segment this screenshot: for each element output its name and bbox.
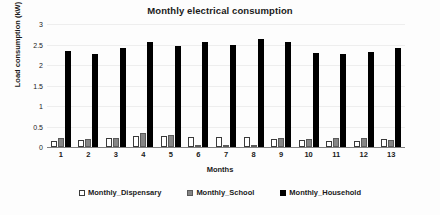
bar-dispensary: [161, 136, 167, 147]
bar-dispensary: [326, 141, 332, 147]
legend-swatch-household-icon: [280, 190, 286, 196]
bar-school: [306, 139, 312, 147]
bar-school: [168, 135, 174, 147]
x-axis-tick-label: 3: [114, 150, 118, 159]
bar-dispensary: [271, 139, 277, 147]
bar-group: [212, 24, 240, 147]
x-axis-tick-label: 13: [387, 150, 395, 159]
bar-group: [130, 24, 158, 147]
chart-container: Monthly electrical consumption Load cons…: [0, 0, 440, 215]
bar-dispensary: [244, 137, 250, 147]
y-axis-tick-label: 2.5: [21, 41, 43, 48]
x-axis-tick-label: 1: [59, 150, 63, 159]
legend-swatch-school-icon: [187, 190, 193, 196]
bar-school: [333, 138, 339, 147]
y-axis-tick-label: 2: [21, 62, 43, 69]
x-axis-tick-label: 7: [224, 150, 228, 159]
bar-group: [240, 24, 268, 147]
legend-item[interactable]: Monthly_Household: [280, 188, 361, 197]
bar-school: [58, 138, 64, 147]
bar-household: [92, 54, 98, 147]
bar-household: [175, 46, 181, 147]
bar-household: [230, 45, 236, 147]
bar-group: [75, 24, 103, 147]
x-axis-tick-label: 10: [304, 150, 312, 159]
legend-item[interactable]: Monthly_Dispensary: [79, 188, 161, 197]
bar-household: [285, 42, 291, 147]
x-axis-tick-label: 2: [86, 150, 90, 159]
y-axis-tick-label: 0: [21, 144, 43, 151]
bar-school: [251, 145, 257, 147]
x-axis-tick-label: 8: [251, 150, 255, 159]
bar-household: [120, 48, 126, 147]
x-axis-tick-label: 6: [196, 150, 200, 159]
legend-swatch-dispensary-icon: [79, 190, 85, 196]
x-axis-tick-label: 5: [169, 150, 173, 159]
bar-group: [350, 24, 378, 147]
x-axis-title: Months: [0, 165, 440, 174]
bar-school: [113, 138, 119, 147]
bar-household: [313, 53, 319, 147]
bar-dispensary: [78, 140, 84, 147]
bar-group: [295, 24, 323, 147]
chart-title: Monthly electrical consumption: [0, 5, 440, 16]
bar-group: [322, 24, 350, 147]
x-axis-tick-label: 12: [360, 150, 368, 159]
legend-label: Monthly_School: [196, 188, 254, 197]
x-axis-tick-label: 4: [141, 150, 145, 159]
x-axis-tick-label: 11: [332, 150, 340, 159]
bar-dispensary: [106, 138, 112, 147]
bar-group: [157, 24, 185, 147]
bar-school: [195, 145, 201, 147]
bar-school: [85, 139, 91, 147]
bar-group: [47, 24, 75, 147]
bar-school: [388, 140, 394, 147]
bar-school: [278, 138, 284, 147]
legend-item[interactable]: Monthly_School: [187, 188, 254, 197]
bar-school: [140, 133, 146, 147]
x-axis-tick-labels: 12345678910111213: [47, 150, 405, 164]
plot-area: [47, 24, 405, 148]
bar-group: [267, 24, 295, 147]
bar-dispensary: [354, 141, 360, 147]
y-axis-tick-label: 1.5: [21, 82, 43, 89]
bar-household: [395, 48, 401, 147]
legend-label: Monthly_Dispensary: [88, 188, 161, 197]
chart-legend: Monthly_DispensaryMonthly_SchoolMonthly_…: [0, 188, 440, 197]
bar-household: [258, 39, 264, 147]
bar-school: [361, 138, 367, 147]
bar-household: [368, 52, 374, 147]
legend-label: Monthly_Household: [289, 188, 361, 197]
bar-household: [147, 42, 153, 147]
bar-group: [377, 24, 405, 147]
y-axis-tick-label: 0.5: [21, 123, 43, 130]
y-axis-tick-label: 1: [21, 103, 43, 110]
y-axis-tick-label: 3: [21, 21, 43, 28]
bar-group: [185, 24, 213, 147]
x-axis-tick-label: 9: [279, 150, 283, 159]
bar-dispensary: [216, 137, 222, 147]
bar-household: [340, 54, 346, 147]
bar-school: [223, 145, 229, 147]
bar-household: [65, 51, 71, 147]
bar-dispensary: [188, 137, 194, 147]
bar-dispensary: [299, 140, 305, 147]
bar-group: [102, 24, 130, 147]
bar-dispensary: [133, 136, 139, 147]
y-axis-tick-labels: 00.511.522.53: [19, 24, 43, 147]
bar-dispensary: [381, 139, 387, 147]
bar-dispensary: [51, 141, 57, 147]
bar-household: [202, 42, 208, 147]
